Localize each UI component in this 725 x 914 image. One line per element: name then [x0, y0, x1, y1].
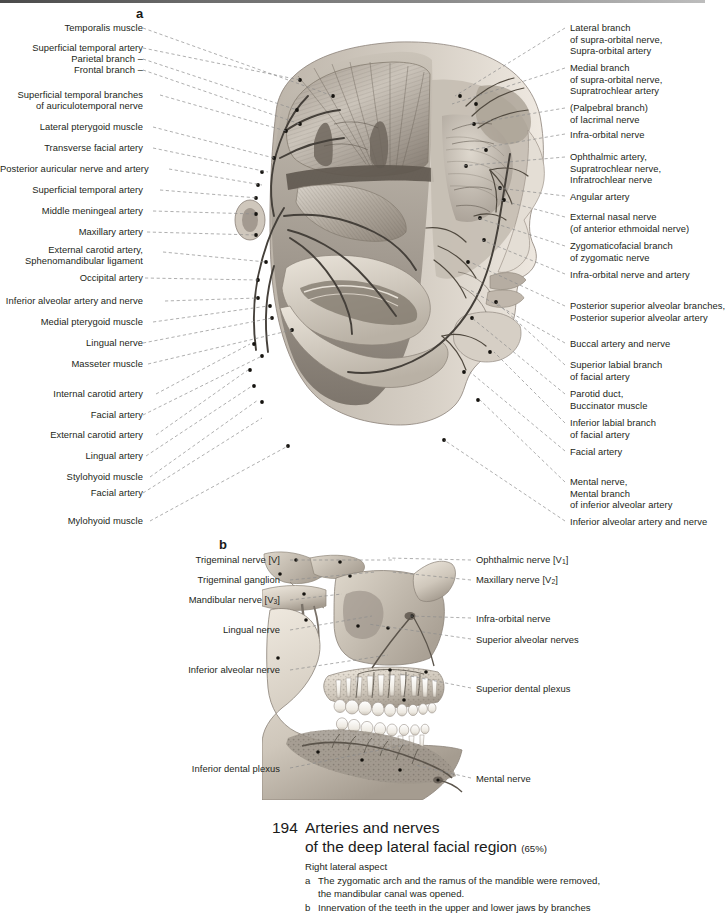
label-b-right-superior-alveolar-nerves: Superior alveolar nerves — [476, 634, 705, 646]
label-a-right-infra-orbital-nerve: Infra-orbital nerve — [570, 129, 705, 141]
label-a-left-superficial-temporal-artery: Superficial temporal artery — [0, 42, 143, 54]
label-a-left-superficial-temporal-branches: Superficial temporal branches — [0, 89, 143, 101]
label-line: (of anterior ethmoidal nerve) — [570, 223, 705, 235]
label-a-right-medial-branch: Medial branchof supra-orbital nerve,Supr… — [570, 62, 705, 97]
caption-scale: (65%) — [521, 843, 547, 854]
label-line: Angular artery — [570, 191, 705, 203]
label-a-right-facial-artery: Facial artery — [570, 446, 705, 458]
label-line: of zygomatic nerve — [570, 252, 705, 264]
label-b-left-inferior-alveolar-nerve: Inferior alveolar nerve — [0, 664, 280, 676]
label-a-left-middle-meningeal-artery: Middle meningeal artery — [0, 205, 143, 217]
label-a-left-medial-pterygoid-muscle: Medial pterygoid muscle — [0, 316, 143, 328]
label-a-right-angular-artery: Angular artery — [570, 191, 705, 203]
label-a-left-occipital-artery: Occipital artery — [0, 272, 143, 284]
label-b-right-mental-nerve: Mental nerve — [476, 773, 705, 785]
label-line: Parotid duct, — [570, 388, 705, 400]
label-a-left-inferior-alveolar-artery-and-nerve: Inferior alveolar artery and nerve — [0, 295, 143, 307]
label-line: of facial artery — [570, 429, 705, 441]
label-line: Posterior superior alveolar artery — [570, 312, 705, 324]
label-line: Supratrochlear artery — [570, 85, 705, 97]
caption-note-b: bInnervation of the teeth in the upper a… — [305, 902, 697, 914]
caption-notes: aThe zygomatic arch and the ramus of the… — [272, 875, 697, 914]
caption-title-line2: of the deep lateral facial region (65%) — [305, 837, 547, 858]
panel-letter-a: a — [136, 6, 143, 21]
label-a-left-lingual-artery: Lingual artery — [0, 450, 143, 462]
label-line: Inferior alveolar artery and nerve — [570, 516, 705, 528]
label-line: Infra-orbital nerve — [570, 129, 705, 141]
caption-note-key: a — [305, 875, 318, 900]
label-b-right-ophthalmic-nerve-v1: Ophthalmic nerve [V1] — [476, 554, 705, 568]
label-a-left-maxillary-artery: Maxillary artery — [0, 226, 143, 238]
label-line: Lateral branch — [570, 22, 705, 34]
label-a-right-palpebral-branch: (Palpebral branch)of lacrimal nerve — [570, 102, 705, 125]
page-top-band — [0, 0, 705, 3]
caption-note-text: The zygomatic arch and the ramus of the … — [318, 875, 697, 900]
label-a-left-parietal-branch: Parietal branch – — [0, 53, 143, 65]
label-a-right-inferior-alveolar-artery-and-nerve: Inferior alveolar artery and nerve — [570, 516, 705, 528]
label-line: Buccinator muscle — [570, 400, 705, 412]
label-line: Infra-orbital nerve and artery — [570, 269, 705, 281]
label-line: Medial branch — [570, 62, 705, 74]
caption-note-key: b — [305, 902, 318, 914]
label-line: Zygomaticofacial branch — [570, 240, 705, 252]
label-b-left-trigeminal-nerve-v: Trigeminal nerve [V] — [0, 554, 280, 566]
caption-title-row: 194 Arteries and nerves of the deep late… — [272, 818, 697, 858]
caption-subtitle: Right lateral aspect — [305, 861, 697, 874]
label-line: of facial artery — [570, 371, 705, 383]
label-a-left-mylohyoid-muscle: Mylohyoid muscle — [0, 515, 143, 527]
label-line: Superior labial branch — [570, 359, 705, 371]
figure-number: 194 — [272, 818, 305, 858]
label-b-left-inferior-dental-plexus: Inferior dental plexus — [0, 763, 280, 775]
label-a-left-lingual-nerve: Lingual nerve — [0, 337, 143, 349]
label-line: Mental nerve, — [570, 476, 705, 488]
label-a-left-stylohyoid-muscle: Stylohyoid muscle — [0, 471, 143, 483]
label-a-right-posterior-superior-alveolar-branches: Posterior superior alveolar branches,Pos… — [570, 300, 705, 323]
label-line: Infratrochlear nerve — [570, 174, 705, 186]
label-b-left-trigeminal-ganglion: Trigeminal ganglion — [0, 574, 280, 586]
panel-letter-b: b — [219, 537, 227, 552]
label-a-right-superior-labial-branch: Superior labial branchof facial artery — [570, 359, 705, 382]
caption-note-text: Innervation of the teeth in the upper an… — [318, 902, 697, 914]
label-a-right-buccal-artery-and-nerve: Buccal artery and nerve — [570, 338, 705, 350]
label-a-left-of-auriculotemporal-nerve: of auriculotemporal nerve — [0, 100, 143, 112]
label-line: Supratrochlear nerve, — [570, 163, 705, 175]
label-a-right-zygomaticofacial-branch: Zygomaticofacial branchof zygomatic nerv… — [570, 240, 705, 263]
label-a-right-parotid-duct: Parotid duct,Buccinator muscle — [570, 388, 705, 411]
figure-a-illustration — [228, 20, 560, 532]
label-b-right-superior-dental-plexus: Superior dental plexus — [476, 683, 705, 695]
label-a-left-sphenomandibular-ligament: Sphenomandibular ligament — [0, 255, 143, 267]
label-line: Supra-orbital artery — [570, 45, 705, 57]
label-a-left-transverse-facial-artery: Transverse facial artery — [0, 142, 143, 154]
label-a-left-internal-carotid-artery: Internal carotid artery — [0, 388, 143, 400]
label-line: of lacrimal nerve — [570, 114, 705, 126]
label-b-right-maxillary-nerve-v2: Maxillary nerve [V2] — [476, 574, 705, 588]
label-line: Posterior superior alveolar branches, — [570, 300, 705, 312]
label-a-right-mental-nerve: Mental nerve,Mental branchof inferior al… — [570, 476, 705, 511]
label-line: Ophthalmic artery, — [570, 151, 705, 163]
figure-caption: 194 Arteries and nerves of the deep late… — [272, 818, 697, 914]
label-line: Buccal artery and nerve — [570, 338, 705, 350]
label-line: Facial artery — [570, 446, 705, 458]
label-a-left-posterior-auricular-nerve-and-artery: Posterior auricular nerve and artery — [0, 163, 143, 175]
label-b-left-lingual-nerve: Lingual nerve — [0, 624, 280, 636]
label-a-left-lateral-pterygoid-muscle: Lateral pterygoid muscle — [0, 121, 143, 133]
label-a-left-superficial-temporal-artery: Superficial temporal artery — [0, 184, 143, 196]
label-line: of supra-orbital nerve, — [570, 74, 705, 86]
label-a-right-external-nasal-nerve: External nasal nerve(of anterior ethmoid… — [570, 211, 705, 234]
label-a-right-ophthalmic-artery: Ophthalmic artery,Supratrochlear nerve,I… — [570, 151, 705, 186]
label-b-left-mandibular-nerve-v3: Mandibular nerve [V3] — [0, 594, 280, 608]
label-line: of supra-orbital nerve, — [570, 34, 705, 46]
caption-note-a: aThe zygomatic arch and the ramus of the… — [305, 875, 697, 900]
label-a-right-infra-orbital-nerve-and-artery: Infra-orbital nerve and artery — [570, 269, 705, 281]
label-a-left-external-carotid-artery: External carotid artery, — [0, 244, 143, 256]
label-a-left-masseter-muscle: Masseter muscle — [0, 358, 143, 370]
label-line: of inferior alveolar artery — [570, 499, 705, 511]
label-line: (Palpebral branch) — [570, 102, 705, 114]
label-a-right-lateral-branch: Lateral branchof supra-orbital nerve,Sup… — [570, 22, 705, 57]
figure-b-illustration — [262, 548, 502, 800]
label-line: Mental branch — [570, 488, 705, 500]
label-a-left-temporalis-muscle: Temporalis muscle — [0, 22, 143, 34]
label-b-right-infra-orbital-nerve: Infra-orbital nerve — [476, 613, 705, 625]
label-a-left-external-carotid-artery: External carotid artery — [0, 429, 143, 441]
